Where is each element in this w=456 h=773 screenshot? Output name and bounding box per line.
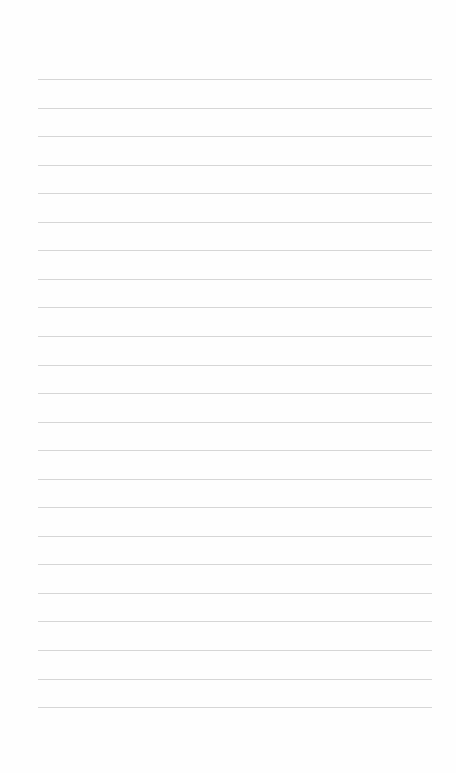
ruled-line [38,79,432,80]
ruled-line [38,621,432,622]
ruled-line [38,165,432,166]
ruled-line [38,507,432,508]
ruled-line [38,365,432,366]
ruled-line [38,564,432,565]
ruled-line [38,650,432,651]
ruled-line [38,307,432,308]
ruled-line [38,450,432,451]
ruled-line [38,222,432,223]
ruled-line [38,193,432,194]
ruled-line [38,393,432,394]
ruled-line [38,679,432,680]
ruled-line [38,479,432,480]
ruled-line [38,422,432,423]
ruled-line [38,593,432,594]
ruled-line [38,279,432,280]
lined-paper-page [0,0,456,773]
ruled-line [38,336,432,337]
ruled-line [38,536,432,537]
ruled-line [38,250,432,251]
ruled-line [38,136,432,137]
ruled-line [38,108,432,109]
ruled-line [38,707,432,708]
